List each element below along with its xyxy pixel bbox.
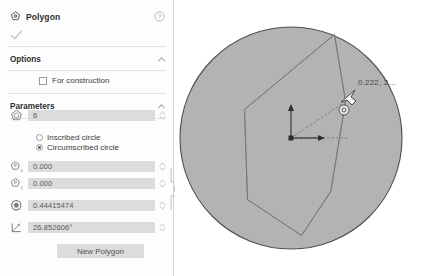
divider — [9, 93, 166, 94]
circumscribed-circle-radio[interactable] — [36, 144, 43, 151]
angle-icon: ° — [10, 221, 23, 234]
sketch-canvas[interactable]: 0.222, 2… — [175, 0, 439, 276]
svg-text:y: y — [20, 184, 23, 190]
section-header-options[interactable]: Options — [10, 53, 167, 65]
chevron-up-icon[interactable] — [157, 55, 166, 64]
help-circle-icon[interactable]: ? — [154, 11, 165, 22]
divider — [9, 70, 166, 71]
svg-text:?: ? — [158, 13, 162, 20]
for-construction-checkbox[interactable] — [39, 77, 47, 85]
dialog-header: Polygon ? — [0, 8, 174, 25]
pentagon-y-icon: y — [10, 177, 23, 190]
svg-text:x: x — [20, 167, 23, 173]
checkmark-icon[interactable] — [10, 29, 23, 42]
radio-row-inscribed[interactable]: Inscribed circle — [36, 133, 100, 142]
divider — [9, 46, 166, 47]
circle-constraint-badge-icon — [339, 105, 349, 115]
center-x-input[interactable]: 0.000 — [28, 161, 155, 172]
for-construction-row[interactable]: For construction — [39, 76, 109, 85]
radius-input[interactable]: 0.44415474 — [28, 200, 155, 211]
circumscribed-circle-label: Circumscribed circle — [47, 143, 119, 152]
sides-value: 6 — [33, 111, 37, 120]
center-x-value: 0.000 — [33, 162, 52, 171]
radius-value: 0.44415474 — [33, 201, 74, 210]
for-construction-label: For construction — [52, 76, 109, 85]
panel-right-edge — [173, 0, 174, 276]
polygon-tool-window: Polygon ? Opt — [0, 0, 439, 276]
circle-radius-icon — [10, 199, 23, 212]
param-row-radius: 0.44415474 — [10, 199, 167, 212]
sides-input[interactable]: 6 — [28, 110, 155, 121]
angle-input[interactable]: 26.852606° — [28, 222, 155, 233]
spinner-updown-icon[interactable] — [158, 200, 167, 211]
inscribed-circle-label: Inscribed circle — [47, 133, 100, 142]
spinner-updown-icon[interactable] — [158, 161, 167, 172]
param-row-center-y: y 0.000 — [10, 177, 167, 190]
coordinate-readout-label: 0.222, 2… — [358, 78, 397, 87]
svg-text:°: ° — [20, 221, 22, 225]
section-label-options: Options — [10, 55, 41, 64]
param-row-angle: ° 26.852606° — [10, 221, 167, 234]
spinner-updown-icon[interactable] — [158, 178, 167, 189]
inscribed-circle-radio[interactable] — [36, 134, 43, 141]
center-y-input[interactable]: 0.000 — [28, 178, 155, 189]
param-row-center-x: x 0.000 — [10, 160, 167, 173]
new-polygon-button[interactable]: New Polygon — [57, 244, 144, 258]
radio-row-circumscribed[interactable]: Circumscribed circle — [36, 143, 119, 152]
spinner-updown-icon[interactable] — [158, 222, 167, 233]
center-y-value: 0.000 — [33, 179, 52, 188]
angle-value: 26.852606° — [33, 223, 72, 232]
polygon-tool-icon — [10, 11, 21, 22]
spinner-updown-icon[interactable] — [158, 110, 167, 121]
confirm-row — [0, 26, 174, 44]
pentagon-sides-icon — [10, 109, 23, 122]
param-row-sides: 6 — [10, 109, 167, 122]
polygon-properties-panel: Polygon ? Opt — [0, 0, 175, 276]
dialog-title: Polygon — [26, 12, 60, 22]
pentagon-x-icon: x — [10, 160, 23, 173]
polygon-sketch-graphic — [175, 0, 439, 276]
